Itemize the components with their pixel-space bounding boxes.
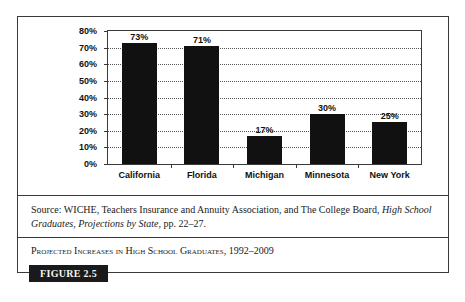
bar-value-label: 17%	[240, 125, 290, 135]
figure-box: 73%71%17%30%25% 0%10%20%30%40%50%60%70%8…	[17, 16, 449, 273]
figure-label: FIGURE 2.5	[29, 265, 108, 282]
y-tick-label: 0%	[57, 159, 97, 169]
y-tick-label: 80%	[57, 26, 97, 36]
x-tick	[358, 164, 359, 168]
y-tick	[104, 81, 108, 82]
y-tick-label: 70%	[57, 43, 97, 53]
figure-caption: Projected Increases in High School Gradu…	[18, 238, 448, 257]
y-tick-label: 20%	[57, 126, 97, 136]
y-tick	[104, 164, 108, 165]
bar-michigan	[247, 136, 282, 164]
caption-text: Projected Increases in High School Gradu…	[31, 245, 224, 256]
bar-value-label: 73%	[114, 32, 164, 42]
bar-value-label: 30%	[302, 103, 352, 113]
category-label: California	[104, 170, 174, 180]
y-tick	[104, 114, 108, 115]
category-label: New York	[355, 170, 425, 180]
bar-value-label: 25%	[365, 111, 415, 121]
y-tick	[104, 131, 108, 132]
bar-california	[122, 43, 157, 164]
y-tick	[104, 147, 108, 148]
y-tick-label: 50%	[57, 76, 97, 86]
category-label: Michigan	[230, 170, 300, 180]
bar-florida	[184, 46, 219, 164]
x-tick	[296, 164, 297, 168]
source-suffix: , pp. 22–27.	[158, 218, 206, 229]
y-tick	[104, 64, 108, 65]
y-tick	[104, 98, 108, 99]
y-tick	[104, 48, 108, 49]
bar-minnesota	[310, 114, 345, 164]
y-tick	[104, 31, 108, 32]
y-tick-label: 10%	[57, 142, 97, 152]
bar-new-york	[372, 122, 407, 164]
caption-years: , 1992–2009	[224, 245, 274, 256]
bar-value-label: 71%	[177, 35, 227, 45]
y-tick-label: 30%	[57, 109, 97, 119]
x-tick	[171, 164, 172, 168]
category-label: Minnesota	[292, 170, 362, 180]
y-tick-label: 40%	[57, 93, 97, 103]
chart-section: 73%71%17%30%25% 0%10%20%30%40%50%60%70%8…	[18, 17, 448, 196]
category-label: Florida	[167, 170, 237, 180]
plot-area: 73%71%17%30%25%	[107, 30, 422, 165]
x-tick	[233, 164, 234, 168]
y-tick-label: 60%	[57, 59, 97, 69]
source-note: Source: WICHE, Teachers Insurance and An…	[18, 196, 448, 238]
source-prefix: Source: WICHE, Teachers Insurance and An…	[31, 204, 382, 215]
